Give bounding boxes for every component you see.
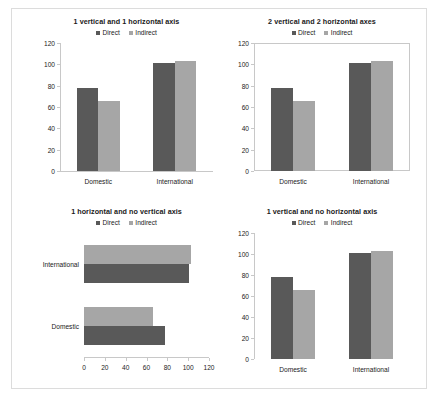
category-label: Domestic bbox=[85, 178, 112, 185]
y-tick-mark bbox=[251, 43, 254, 44]
y-axis-line bbox=[60, 43, 61, 171]
y-axis-line bbox=[254, 233, 255, 359]
y-tick-mark bbox=[251, 64, 254, 65]
y-tick-label: 40 bbox=[48, 125, 55, 132]
plot-area bbox=[254, 43, 410, 171]
y-tick-label: 100 bbox=[44, 61, 55, 68]
bar-direct-international[interactable] bbox=[153, 63, 174, 171]
plot-area bbox=[254, 233, 410, 359]
x-tick-label: 120 bbox=[203, 364, 214, 371]
x-tick-label: 40 bbox=[122, 364, 129, 371]
y-tick-mark bbox=[57, 171, 60, 172]
chart-top-right: 2 vertical and 2 horizontal axesDirectIn… bbox=[228, 17, 416, 197]
bar-indirect-international[interactable] bbox=[371, 251, 393, 359]
y-tick-label: 40 bbox=[242, 314, 249, 321]
category-label: International bbox=[353, 366, 389, 373]
bar-indirect-international[interactable] bbox=[175, 61, 196, 171]
x-tick-mark bbox=[105, 358, 106, 361]
figure-frame: 1 vertical and 1 horizontal axisDirectIn… bbox=[11, 8, 427, 389]
y-tick-label: 120 bbox=[44, 40, 55, 47]
category-label: International bbox=[353, 178, 389, 185]
bar-indirect-domestic[interactable] bbox=[84, 307, 153, 326]
x-tick-mark bbox=[209, 358, 210, 361]
y-tick-label: 120 bbox=[238, 40, 249, 47]
plot-wrap: 020406080100120DomesticInternational bbox=[228, 17, 416, 197]
x-tick-mark bbox=[167, 358, 168, 361]
y-tick-label: 20 bbox=[242, 146, 249, 153]
x-tick-label: 100 bbox=[183, 364, 194, 371]
y-tick-label: 60 bbox=[48, 104, 55, 111]
chart-bottom-left: 1 horizontal and no vertical axisDirectI… bbox=[34, 207, 219, 385]
y-tick-mark bbox=[251, 86, 254, 87]
chart-bottom-right: 1 vertical and no horizontal axisDirectI… bbox=[228, 207, 416, 385]
x-tick-label: 0 bbox=[82, 364, 86, 371]
y-tick-mark bbox=[57, 107, 60, 108]
bar-direct-domestic[interactable] bbox=[84, 326, 165, 345]
x-tick-mark bbox=[188, 358, 189, 361]
bar-direct-international[interactable] bbox=[349, 63, 371, 171]
y-tick-label: 0 bbox=[245, 356, 249, 363]
chart-top-left: 1 vertical and 1 horizontal axisDirectIn… bbox=[34, 17, 219, 197]
y-tick-mark bbox=[251, 359, 254, 360]
y-tick-label: 0 bbox=[51, 168, 55, 175]
category-label: Domestic bbox=[34, 323, 79, 330]
y-tick-label: 40 bbox=[242, 125, 249, 132]
plot-wrap: 020406080100120DomesticInternational bbox=[34, 207, 219, 385]
y-tick-label: 80 bbox=[242, 272, 249, 279]
cropped-caption-text bbox=[60, 0, 70, 4]
bar-direct-domestic[interactable] bbox=[271, 277, 293, 359]
y-tick-mark bbox=[57, 64, 60, 65]
bar-indirect-international[interactable] bbox=[371, 61, 393, 171]
y-tick-mark bbox=[57, 86, 60, 87]
plot-wrap: 020406080100120DomesticInternational bbox=[34, 17, 219, 197]
x-tick-mark bbox=[126, 358, 127, 361]
y-tick-mark bbox=[251, 254, 254, 255]
y-tick-mark bbox=[57, 150, 60, 151]
y-tick-mark bbox=[251, 317, 254, 318]
y-tick-label: 120 bbox=[238, 230, 249, 237]
y-tick-label: 60 bbox=[242, 104, 249, 111]
bar-indirect-international[interactable] bbox=[84, 245, 191, 264]
x-tick-mark bbox=[147, 358, 148, 361]
y-tick-label: 100 bbox=[238, 61, 249, 68]
bar-indirect-domestic[interactable] bbox=[293, 290, 315, 359]
page-text-crop bbox=[0, 0, 438, 7]
y-tick-label: 0 bbox=[245, 168, 249, 175]
y-tick-mark bbox=[251, 150, 254, 151]
category-label: Domestic bbox=[279, 178, 306, 185]
bar-direct-international[interactable] bbox=[84, 264, 189, 283]
y-tick-mark bbox=[251, 171, 254, 172]
y-tick-label: 60 bbox=[242, 293, 249, 300]
plot-wrap: 020406080100120DomesticInternational bbox=[228, 207, 416, 385]
y-tick-label: 20 bbox=[48, 146, 55, 153]
x-tick-label: 80 bbox=[164, 364, 171, 371]
x-tick-label: 20 bbox=[101, 364, 108, 371]
y-tick-mark bbox=[251, 128, 254, 129]
plot-area bbox=[84, 233, 209, 357]
bar-direct-international[interactable] bbox=[349, 253, 371, 359]
y-tick-mark bbox=[251, 338, 254, 339]
category-label: International bbox=[157, 178, 193, 185]
y-tick-mark bbox=[251, 233, 254, 234]
y-tick-label: 80 bbox=[48, 82, 55, 89]
y-tick-mark bbox=[57, 43, 60, 44]
y-tick-mark bbox=[251, 107, 254, 108]
bar-direct-domestic[interactable] bbox=[77, 88, 98, 171]
y-tick-mark bbox=[251, 275, 254, 276]
bar-direct-domestic[interactable] bbox=[271, 88, 293, 171]
plot-area bbox=[60, 43, 213, 171]
x-axis-line bbox=[60, 171, 213, 172]
y-tick-mark bbox=[251, 296, 254, 297]
y-tick-label: 20 bbox=[242, 335, 249, 342]
y-tick-mark bbox=[57, 128, 60, 129]
y-tick-label: 80 bbox=[242, 82, 249, 89]
bar-indirect-domestic[interactable] bbox=[293, 101, 315, 171]
y-tick-label: 100 bbox=[238, 251, 249, 258]
category-label: Domestic bbox=[279, 366, 306, 373]
x-tick-mark bbox=[84, 358, 85, 361]
x-tick-label: 60 bbox=[143, 364, 150, 371]
category-label: International bbox=[34, 261, 79, 268]
bar-indirect-domestic[interactable] bbox=[98, 101, 119, 171]
